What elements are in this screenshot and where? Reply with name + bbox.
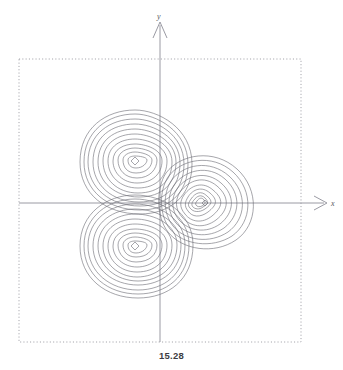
- contour-set: [80, 110, 253, 298]
- figure-container: x y: [0, 0, 343, 370]
- upper-left-lobe: [80, 110, 192, 214]
- x-axis-label: x: [330, 199, 335, 208]
- contour-ring: [196, 198, 205, 206]
- right-lobe: [159, 156, 254, 249]
- contour-ring: [108, 139, 167, 188]
- contour-ring: [80, 195, 193, 298]
- contour-center-diamond: [131, 157, 139, 165]
- figure-caption: 15.28: [0, 350, 343, 362]
- contour-center-diamond: [131, 242, 139, 250]
- y-axis-label: y: [156, 12, 161, 21]
- contour-plot: x y: [0, 0, 343, 370]
- contour-ring: [128, 156, 147, 168]
- contour-ring: [118, 148, 157, 178]
- contour-ring: [113, 144, 162, 183]
- contour-ring: [113, 229, 162, 267]
- contour-ring: [84, 114, 188, 210]
- contour-ring: [80, 110, 192, 214]
- contour-ring: [108, 224, 167, 272]
- contour-ring: [93, 209, 181, 285]
- contour-ring: [123, 237, 152, 257]
- contour-ring: [84, 199, 189, 294]
- contour-ring: [165, 165, 242, 239]
- lower-left-lobe: [80, 195, 193, 298]
- contour-ring: [128, 241, 147, 253]
